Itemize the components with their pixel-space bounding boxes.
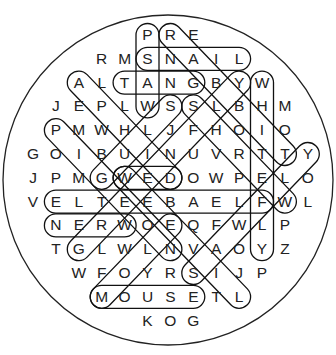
grid-letter[interactable]: S: [159, 286, 181, 308]
grid-letter[interactable]: F: [205, 214, 227, 236]
grid-letter[interactable]: E: [45, 191, 67, 213]
grid-letter[interactable]: N: [159, 72, 181, 94]
grid-letter[interactable]: W: [228, 214, 250, 236]
grid-letter[interactable]: W: [114, 214, 136, 236]
grid-letter[interactable]: O: [159, 310, 181, 332]
grid-letter[interactable]: F: [182, 119, 204, 141]
grid-letter[interactable]: G: [91, 167, 113, 189]
grid-letter[interactable]: W: [68, 262, 90, 284]
grid-letter[interactable]: R: [228, 143, 250, 165]
grid-letter[interactable]: L: [91, 238, 113, 260]
grid-letter[interactable]: U: [137, 286, 159, 308]
grid-letter[interactable]: O: [228, 119, 250, 141]
grid-letter[interactable]: O: [45, 143, 67, 165]
grid-letter[interactable]: D: [159, 167, 181, 189]
grid-letter[interactable]: B: [205, 72, 227, 94]
grid-letter[interactable]: E: [137, 191, 159, 213]
grid-letter[interactable]: O: [137, 214, 159, 236]
grid-letter[interactable]: R: [91, 48, 113, 70]
grid-letter[interactable]: H: [114, 119, 136, 141]
grid-letter[interactable]: M: [114, 48, 136, 70]
grid-letter[interactable]: L: [228, 191, 250, 213]
grid-letter[interactable]: L: [251, 214, 273, 236]
grid-letter[interactable]: W: [91, 119, 113, 141]
grid-letter[interactable]: L: [68, 191, 90, 213]
grid-letter[interactable]: G: [68, 238, 90, 260]
grid-letter[interactable]: Y: [251, 238, 273, 260]
grid-letter[interactable]: T: [251, 143, 273, 165]
grid-letter[interactable]: G: [182, 72, 204, 94]
grid-letter[interactable]: V: [22, 191, 44, 213]
grid-letter[interactable]: B: [91, 143, 113, 165]
grid-letter[interactable]: E: [251, 167, 273, 189]
grid-letter[interactable]: B: [159, 191, 181, 213]
grid-letter[interactable]: O: [274, 119, 296, 141]
grid-letter[interactable]: E: [68, 214, 90, 236]
grid-letter[interactable]: E: [68, 95, 90, 117]
grid-letter[interactable]: Y: [228, 72, 250, 94]
grid-letter[interactable]: P: [228, 167, 250, 189]
grid-letter[interactable]: V: [182, 238, 204, 260]
grid-letter[interactable]: K: [137, 310, 159, 332]
grid-letter[interactable]: E: [182, 24, 204, 46]
grid-letter[interactable]: J: [228, 262, 250, 284]
grid-letter[interactable]: L: [205, 95, 227, 117]
grid-letter[interactable]: J: [22, 167, 44, 189]
grid-letter[interactable]: Q: [182, 214, 204, 236]
grid-letter[interactable]: M: [68, 167, 90, 189]
grid-letter[interactable]: N: [159, 48, 181, 70]
grid-letter[interactable]: S: [159, 95, 181, 117]
grid-letter[interactable]: M: [274, 95, 296, 117]
grid-letter[interactable]: T: [114, 72, 136, 94]
grid-letter[interactable]: L: [228, 48, 250, 70]
grid-letter[interactable]: H: [205, 119, 227, 141]
grid-letter[interactable]: R: [91, 214, 113, 236]
grid-letter[interactable]: E: [137, 167, 159, 189]
grid-letter[interactable]: P: [274, 214, 296, 236]
grid-letter[interactable]: W: [205, 167, 227, 189]
grid-letter[interactable]: E: [114, 191, 136, 213]
grid-letter[interactable]: F: [91, 262, 113, 284]
grid-letter[interactable]: N: [159, 143, 181, 165]
grid-letter[interactable]: U: [114, 143, 136, 165]
grid-letter[interactable]: O: [182, 167, 204, 189]
grid-letter[interactable]: O: [114, 262, 136, 284]
grid-letter[interactable]: N: [45, 214, 67, 236]
grid-letter[interactable]: M: [91, 286, 113, 308]
grid-letter[interactable]: Y: [297, 143, 319, 165]
grid-letter[interactable]: T: [274, 143, 296, 165]
grid-letter[interactable]: T: [205, 286, 227, 308]
grid-letter[interactable]: O: [297, 167, 319, 189]
grid-letter[interactable]: S: [137, 48, 159, 70]
grid-letter[interactable]: R: [159, 262, 181, 284]
grid-letter[interactable]: S: [182, 262, 204, 284]
grid-letter[interactable]: H: [251, 95, 273, 117]
grid-letter[interactable]: N: [159, 238, 181, 260]
grid-letter[interactable]: L: [137, 238, 159, 260]
grid-letter[interactable]: W: [251, 72, 273, 94]
grid-letter[interactable]: M: [68, 119, 90, 141]
grid-letter[interactable]: A: [68, 72, 90, 94]
grid-letter[interactable]: O: [114, 286, 136, 308]
grid-letter[interactable]: W: [114, 238, 136, 260]
grid-letter[interactable]: P: [45, 119, 67, 141]
grid-letter[interactable]: L: [297, 191, 319, 213]
grid-letter[interactable]: T: [45, 238, 67, 260]
grid-letter[interactable]: L: [137, 119, 159, 141]
grid-letter[interactable]: L: [274, 167, 296, 189]
grid-letter[interactable]: J: [159, 119, 181, 141]
grid-letter[interactable]: G: [22, 143, 44, 165]
grid-letter[interactable]: P: [251, 262, 273, 284]
grid-letter[interactable]: Z: [274, 238, 296, 260]
grid-letter[interactable]: V: [205, 143, 227, 165]
grid-letter[interactable]: A: [205, 238, 227, 260]
grid-letter[interactable]: A: [137, 72, 159, 94]
grid-letter[interactable]: I: [68, 143, 90, 165]
grid-letter[interactable]: A: [182, 48, 204, 70]
grid-letter[interactable]: E: [159, 214, 181, 236]
grid-letter[interactable]: J: [45, 95, 67, 117]
grid-letter[interactable]: P: [137, 24, 159, 46]
grid-letter[interactable]: Y: [137, 262, 159, 284]
grid-letter[interactable]: L: [91, 72, 113, 94]
grid-letter[interactable]: F: [251, 191, 273, 213]
